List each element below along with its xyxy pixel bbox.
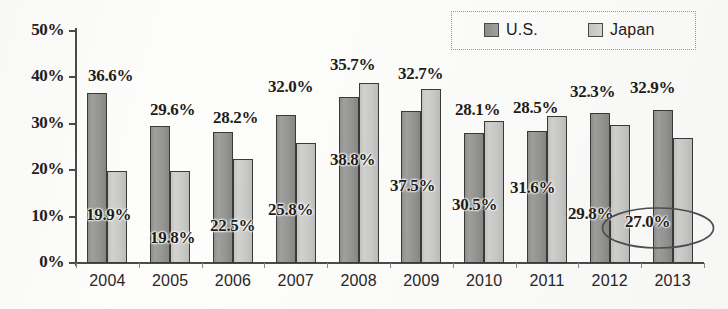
y-axis-tick-label: 0% xyxy=(0,252,64,272)
legend-swatch-japan-icon xyxy=(588,23,603,37)
chart-legend: U.S. Japan xyxy=(451,11,696,50)
x-axis-tick-label: 2005 xyxy=(139,272,202,290)
data-label-japan: 19.8% xyxy=(150,228,195,248)
data-label-us: 32.3% xyxy=(570,82,615,102)
data-label-japan: 31.6% xyxy=(510,178,555,198)
x-axis-tick xyxy=(516,263,517,268)
x-axis-tick xyxy=(327,263,328,268)
bar-japan xyxy=(170,171,190,263)
data-label-japan: 27.0% xyxy=(625,212,670,232)
legend-item-japan: Japan xyxy=(588,21,655,39)
bar-japan xyxy=(359,83,379,263)
y-axis-tick-label: 10% xyxy=(0,206,64,226)
x-axis-tick xyxy=(139,263,140,268)
bar-chart: 0%10%20%30%40%50% 2004200520062007200820… xyxy=(0,0,728,309)
data-label-us: 32.9% xyxy=(630,78,675,98)
x-axis-tick-label: 2006 xyxy=(202,272,265,290)
data-label-us: 28.5% xyxy=(513,98,558,118)
data-label-japan: 19.9% xyxy=(86,205,131,225)
x-axis-tick xyxy=(390,263,391,268)
x-axis-tick xyxy=(264,263,265,268)
bar-us xyxy=(213,132,233,263)
data-label-japan: 37.5% xyxy=(390,176,435,196)
bar-japan xyxy=(233,159,253,263)
bar-us xyxy=(339,97,359,263)
data-label-us: 28.1% xyxy=(455,100,500,120)
data-label-us: 36.6% xyxy=(88,66,133,86)
data-label-japan: 29.8% xyxy=(568,204,613,224)
x-axis-tick-label: 2007 xyxy=(264,272,327,290)
data-label-us: 32.7% xyxy=(398,64,443,84)
data-label-japan: 30.5% xyxy=(452,195,497,215)
x-axis-tick xyxy=(578,263,579,268)
legend-label-us: U.S. xyxy=(506,21,538,39)
bar-japan xyxy=(484,121,504,263)
y-axis-tick-label: 50% xyxy=(0,20,64,40)
data-label-us: 29.6% xyxy=(150,100,195,120)
legend-item-us: U.S. xyxy=(484,21,538,39)
x-axis-tick-label: 2009 xyxy=(390,272,453,290)
x-axis-tick-label: 2008 xyxy=(327,272,390,290)
legend-swatch-us-icon xyxy=(484,23,499,37)
x-axis-tick xyxy=(704,263,705,268)
bar-japan xyxy=(673,138,693,263)
bar-us xyxy=(276,115,296,263)
y-axis-tick-label: 30% xyxy=(0,113,64,133)
data-label-japan: 22.5% xyxy=(210,216,255,236)
data-label-us: 32.0% xyxy=(268,77,313,97)
x-axis-tick-label: 2012 xyxy=(578,272,641,290)
x-axis-tick-label: 2013 xyxy=(641,272,704,290)
x-axis-tick-label: 2011 xyxy=(516,272,579,290)
x-axis-tick xyxy=(453,263,454,268)
y-axis-tick-label: 20% xyxy=(0,159,64,179)
bar-us xyxy=(653,110,673,263)
x-axis-tick-label: 2004 xyxy=(76,272,139,290)
y-axis-tick-label: 40% xyxy=(0,66,64,86)
x-axis-tick xyxy=(641,263,642,268)
x-axis-tick xyxy=(202,263,203,268)
x-axis-tick-label: 2010 xyxy=(453,272,516,290)
data-label-japan: 38.8% xyxy=(330,150,375,170)
data-label-us: 28.2% xyxy=(213,108,258,128)
data-label-us: 35.7% xyxy=(330,55,375,75)
bar-us xyxy=(87,93,107,263)
data-label-japan: 25.8% xyxy=(268,200,313,220)
x-axis-tick xyxy=(76,263,77,268)
bar-japan xyxy=(610,125,630,263)
bar-us xyxy=(590,113,610,263)
legend-label-japan: Japan xyxy=(610,21,655,39)
